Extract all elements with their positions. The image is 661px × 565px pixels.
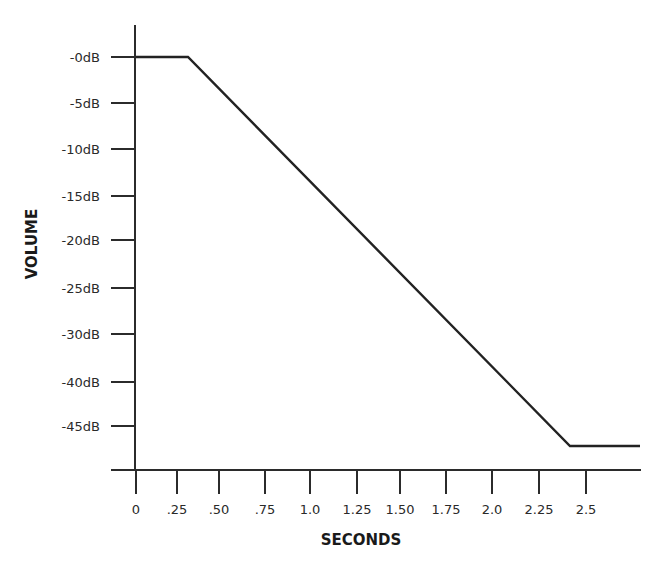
x-tick-label: 2.0 (482, 502, 503, 517)
x-tick-label: 1.25 (343, 502, 372, 517)
x-axis-title: SECONDS (321, 531, 402, 549)
y-tick-label: -15dB (62, 189, 100, 204)
y-tick-label: -5dB (70, 96, 100, 111)
y-tick-label: -30dB (62, 327, 100, 342)
y-tick-label: -0dB (70, 50, 100, 65)
y-ticks: -0dB-5dB-10dB-15dB-20dB-25dB-30dB-40dB-4… (62, 50, 135, 434)
x-ticks: 0.25.50.751.01.251.501.752.02.252.5 (132, 470, 596, 517)
x-tick-label: 0 (132, 502, 140, 517)
x-tick-label: 1.75 (432, 502, 461, 517)
y-tick-label: -45dB (62, 419, 100, 434)
x-tick-label: .75 (255, 502, 276, 517)
y-axis-title: VOLUME (23, 209, 41, 279)
y-tick-label: -10dB (62, 142, 100, 157)
y-tick-label: -25dB (62, 281, 100, 296)
y-tick-label: -40dB (62, 375, 100, 390)
x-tick-label: 2.5 (576, 502, 597, 517)
volume-chart: -0dB-5dB-10dB-15dB-20dB-25dB-30dB-40dB-4… (0, 0, 661, 565)
x-tick-label: .25 (167, 502, 188, 517)
y-tick-label: -20dB (62, 233, 100, 248)
x-tick-label: 1.50 (386, 502, 415, 517)
x-tick-label: .50 (209, 502, 230, 517)
x-tick-label: 1.0 (300, 502, 321, 517)
volume-envelope-line (136, 57, 640, 446)
x-tick-label: 2.25 (525, 502, 554, 517)
